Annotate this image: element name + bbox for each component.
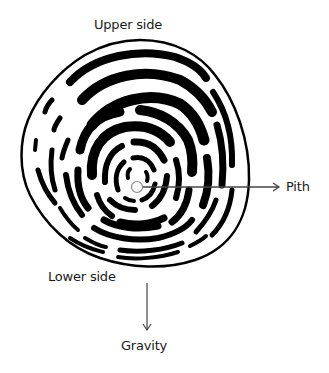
growth-rings bbox=[35, 53, 232, 258]
gravity-label: Gravity bbox=[121, 338, 167, 353]
upper-side-label: Upper side bbox=[94, 17, 162, 32]
pith-label: Pith bbox=[286, 179, 310, 194]
stem-cross-section-diagram bbox=[0, 0, 329, 373]
pith-circle bbox=[132, 182, 143, 193]
lower-side-label: Lower side bbox=[48, 269, 116, 284]
gravity-arrow-icon bbox=[143, 283, 151, 330]
